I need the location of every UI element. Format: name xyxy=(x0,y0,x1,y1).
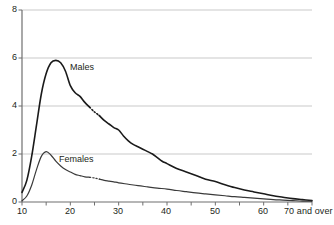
x-tick-label-30: 30 xyxy=(104,206,132,216)
x-tick-label-50: 50 xyxy=(201,206,229,216)
gridlines-group xyxy=(22,10,312,154)
x-tick-label-70-and-over: 70 and over xyxy=(284,206,334,216)
tick-marks-group xyxy=(19,10,313,206)
y-tick-label-0: 0 xyxy=(0,196,17,206)
series-group xyxy=(22,60,312,201)
y-tick-label-4: 4 xyxy=(0,100,17,110)
series-annotation-females: Females xyxy=(59,154,94,164)
line-chart-plot xyxy=(0,0,334,225)
x-tick-label-40: 40 xyxy=(152,206,180,216)
x-tick-label-60: 60 xyxy=(249,206,277,216)
series-annotation-males: Males xyxy=(70,62,94,72)
x-tick-label-10: 10 xyxy=(8,206,36,216)
y-tick-label-2: 2 xyxy=(0,148,17,158)
y-tick-label-8: 8 xyxy=(0,4,17,14)
chart-container: 0 2 4 6 8 10 20 30 40 50 60 70 and over … xyxy=(0,0,334,225)
y-tick-label-6: 6 xyxy=(0,52,17,62)
x-tick-label-20: 20 xyxy=(56,206,84,216)
